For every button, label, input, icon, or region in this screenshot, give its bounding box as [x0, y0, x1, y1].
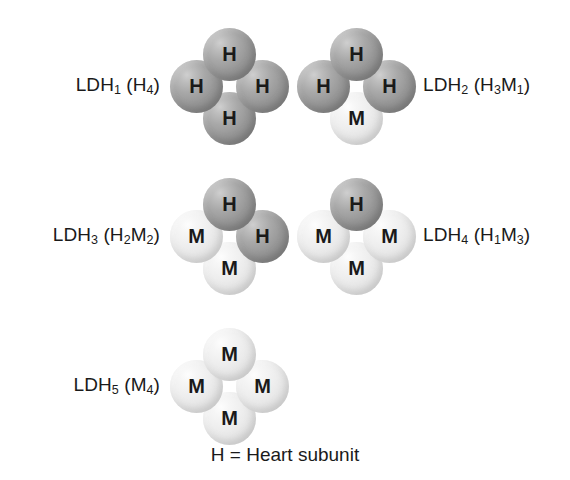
- label-close: ): [154, 224, 160, 245]
- isozyme-row: LDH1 (H4) H H H H H H H M LDH2 (H3M1): [0, 0, 570, 160]
- subunit-letter: M: [348, 108, 365, 128]
- isozyme-row: LDH5 (M4) M M M M: [0, 300, 570, 460]
- subunit-letter: M: [221, 408, 238, 428]
- label-prefix: LDH: [76, 74, 114, 95]
- isozyme-ldh5: LDH5 (M4) M M M M: [0, 300, 295, 460]
- subunit-letter: M: [221, 258, 238, 278]
- isozyme-label: LDH5 (M4): [0, 374, 160, 396]
- subunit-top: H: [330, 28, 383, 81]
- label-prefix: LDH: [423, 224, 461, 245]
- label-prefix: LDH: [423, 74, 461, 95]
- subunit-letter: M: [188, 226, 205, 246]
- isozyme-label: LDH1 (H4): [0, 74, 160, 96]
- subunit-top: H: [330, 178, 383, 231]
- isozyme-label: LDH3 (H2M2): [0, 224, 160, 246]
- subunit-letter: H: [316, 76, 330, 96]
- isozyme-row: LDH3 (H2M2) H M H M H M M M LDH4 (H1M3): [0, 150, 570, 310]
- label-sub1: 4: [147, 83, 154, 97]
- label-prefix: LDH: [74, 374, 112, 395]
- isozyme-label: LDH2 (H3M1): [423, 74, 568, 96]
- isozyme-ldh3: LDH3 (H2M2) H M H M: [0, 150, 295, 310]
- diagram-caption: H = Heart subunit: [0, 444, 570, 466]
- label-sub2: 3: [517, 233, 524, 247]
- subunit-letter: M: [221, 344, 238, 364]
- subunit-letter: M: [254, 376, 271, 396]
- isozyme-ldh1: LDH1 (H4) H H H H: [0, 0, 295, 160]
- label-index: 2: [461, 83, 468, 97]
- label-sub1: 3: [494, 83, 501, 97]
- label-sub1: 2: [124, 233, 131, 247]
- subunit-letter: H: [255, 76, 269, 96]
- label-open: (H: [468, 224, 494, 245]
- subunit-letter: H: [349, 44, 363, 64]
- label-sub2: 2: [147, 233, 154, 247]
- label-sub2: 1: [517, 83, 524, 97]
- label-open: (H: [468, 74, 494, 95]
- subunit-cluster: H M H M: [170, 178, 290, 296]
- subunit-cluster: M M M M: [170, 328, 290, 446]
- label-index: 5: [112, 383, 119, 397]
- label-sub1: 1: [494, 233, 501, 247]
- label-index: 4: [461, 233, 468, 247]
- isozyme-ldh4: H M M M LDH4 (H1M3): [295, 150, 570, 310]
- subunit-letter: M: [381, 226, 398, 246]
- subunit-cluster: H H H H: [170, 28, 290, 146]
- label-index: 1: [114, 83, 121, 97]
- subunit-letter: M: [188, 376, 205, 396]
- subunit-top: H: [203, 28, 256, 81]
- label-open: (H: [121, 74, 147, 95]
- label-mid: M: [501, 74, 517, 95]
- subunit-letter: M: [315, 226, 332, 246]
- label-close: ): [524, 224, 530, 245]
- subunit-letter: H: [255, 226, 269, 246]
- subunit-letter: H: [222, 108, 236, 128]
- subunit-letter: H: [222, 194, 236, 214]
- subunit-letter: H: [382, 76, 396, 96]
- label-mid: M: [501, 224, 517, 245]
- subunit-top: M: [203, 328, 256, 381]
- isozyme-label: LDH4 (H1M3): [423, 224, 568, 246]
- label-open: (H: [98, 224, 124, 245]
- label-prefix: LDH: [53, 224, 91, 245]
- subunit-top: H: [203, 178, 256, 231]
- label-close: ): [154, 74, 160, 95]
- subunit-letter: M: [348, 258, 365, 278]
- isozyme-ldh2: H H H M LDH2 (H3M1): [295, 0, 570, 160]
- label-close: ): [154, 374, 160, 395]
- label-sub1: 4: [147, 383, 154, 397]
- label-mid: M: [131, 224, 147, 245]
- subunit-letter: H: [189, 76, 203, 96]
- label-open: (M: [119, 374, 147, 395]
- subunit-cluster: H H H M: [297, 28, 417, 146]
- ldh-isozyme-diagram: LDH1 (H4) H H H H H H H M LDH2 (H3M1) LD…: [0, 0, 570, 480]
- subunit-letter: H: [349, 194, 363, 214]
- label-index: 3: [91, 233, 98, 247]
- subunit-cluster: H M M M: [297, 178, 417, 296]
- label-close: ): [524, 74, 530, 95]
- subunit-letter: H: [222, 44, 236, 64]
